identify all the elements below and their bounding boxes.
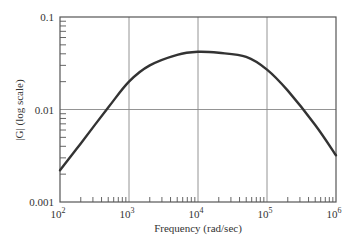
y-tick-label: 0.1: [40, 11, 54, 23]
x-axis-title: Frequency (rad/sec): [154, 222, 242, 235]
x-axis-tick-labels: 102103104105106: [51, 206, 342, 220]
y-axis-tick-labels: 0.10.010.001: [29, 11, 54, 208]
y-tick-label: 0.001: [29, 196, 54, 208]
x-tick-label: 106: [327, 206, 342, 220]
x-tick-label: 102: [51, 206, 66, 220]
grid-lines: [60, 17, 336, 202]
axis-ticks: [60, 21, 333, 202]
y-tick-label: 0.01: [35, 104, 54, 116]
y-axis-title: |G| (log scale): [13, 79, 26, 141]
x-tick-label: 104: [189, 206, 204, 220]
bode-magnitude-chart: 102103104105106 0.10.010.001 Frequency (…: [0, 0, 359, 247]
x-tick-label: 105: [258, 206, 273, 220]
x-tick-label: 103: [120, 206, 135, 220]
